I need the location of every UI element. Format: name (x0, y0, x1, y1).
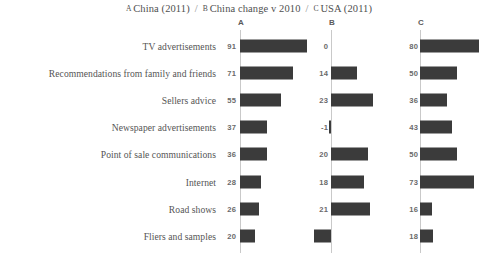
bar-c (420, 93, 447, 106)
value-label-c: 73 (392, 177, 418, 186)
value-label-c: 50 (392, 68, 418, 77)
bar-b (331, 202, 370, 215)
title-separator-1: / (195, 3, 198, 14)
chart-row: Fliers and samples20-918 (0, 222, 498, 249)
bar-c (420, 66, 457, 79)
title-text-a: China (2011) (133, 3, 190, 14)
column-header-a: A (238, 18, 244, 27)
title-key-b: B (203, 4, 208, 13)
bar-track-c (420, 168, 494, 195)
bar-track-c (420, 114, 494, 141)
title-segment-a: AChina (2011) (126, 3, 190, 14)
value-label-c: 43 (392, 123, 418, 132)
title-text-b: China change v 2010 (210, 3, 301, 14)
bar-track-b (297, 32, 377, 59)
category-label: Newspaper advertisements (112, 122, 216, 133)
bar-b (331, 175, 364, 188)
value-label-c: 18 (392, 231, 418, 240)
bar-a (240, 202, 259, 215)
category-label: TV advertisements (143, 40, 216, 51)
title-key-c: C (314, 4, 319, 13)
bar-b (329, 121, 331, 134)
title-separator-2: / (306, 3, 309, 14)
bar-track-c (420, 86, 494, 113)
value-label-a: 55 (210, 95, 236, 104)
value-label-c: 80 (392, 41, 418, 50)
bar-b (331, 148, 368, 161)
value-label-a: 37 (210, 123, 236, 132)
bar-track-b (297, 222, 377, 249)
chart-row: Point of sale communications362050 (0, 141, 498, 168)
category-label: Fliers and samples (144, 230, 216, 241)
title-segment-b: BChina change v 2010 (203, 3, 301, 14)
bar-c (420, 202, 432, 215)
bar-a (240, 148, 267, 161)
value-label-a: 20 (210, 231, 236, 240)
bar-a (240, 66, 293, 79)
category-label: Recommendations from family and friends (49, 67, 216, 78)
bar-track-c (420, 195, 494, 222)
value-label-c: 50 (392, 150, 418, 159)
bar-track-c (420, 141, 494, 168)
column-headers: A B C (0, 18, 498, 30)
value-label-c: 16 (392, 204, 418, 213)
category-label: Sellers advice (162, 94, 216, 105)
chart-row: TV advertisements91080 (0, 32, 498, 59)
bar-a (240, 121, 267, 134)
bar-c (420, 39, 479, 52)
bar-track-b (297, 141, 377, 168)
bar-track-c (420, 32, 494, 59)
column-header-b: B (329, 18, 335, 27)
value-label-c: 36 (392, 95, 418, 104)
chart-row: Newspaper advertisements37-143 (0, 114, 498, 141)
value-label-a: 36 (210, 150, 236, 159)
bar-b (331, 66, 357, 79)
bar-c (420, 148, 457, 161)
bar-track-b (297, 59, 377, 86)
bar-c (420, 121, 452, 134)
value-label-a: 26 (210, 204, 236, 213)
chart-row: Road shows262116 (0, 195, 498, 222)
value-label-a: 91 (210, 41, 236, 50)
category-label: Point of sale communications (101, 149, 216, 160)
bar-a (240, 93, 281, 106)
bar-track-b (297, 195, 377, 222)
bar-c (420, 229, 433, 242)
bar-track-c (420, 59, 494, 86)
title-key-a: A (126, 4, 132, 13)
bar-track-b (297, 168, 377, 195)
chart-rows: TV advertisements91080Recommendations fr… (0, 32, 498, 250)
value-label-a: 28 (210, 177, 236, 186)
category-label: Road shows (169, 203, 216, 214)
title-segment-c: CUSA (2011) (314, 3, 373, 14)
bar-track-b (297, 86, 377, 113)
chart-row: Recommendations from family and friends7… (0, 59, 498, 86)
chart-title: AChina (2011)/BChina change v 2010/CUSA … (0, 3, 498, 14)
bar-b (314, 229, 331, 242)
bar-c (420, 175, 474, 188)
bar-a (240, 175, 261, 188)
bar-a (240, 229, 255, 242)
chart-container: AChina (2011)/BChina change v 2010/CUSA … (0, 0, 498, 265)
bar-track-c (420, 222, 494, 249)
title-text-c: USA (2011) (320, 3, 372, 14)
chart-row: Sellers advice552336 (0, 86, 498, 113)
value-label-a: 71 (210, 68, 236, 77)
bar-track-b (297, 114, 377, 141)
column-header-c: C (418, 18, 424, 27)
chart-row: Internet281873 (0, 168, 498, 195)
bar-b (331, 93, 373, 106)
